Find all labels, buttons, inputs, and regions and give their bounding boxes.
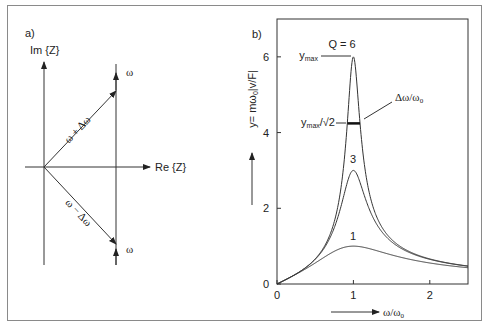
q6-label: Q = 6 [328,38,355,50]
x-axis-label: ω/ω0 [383,306,405,320]
figure: a) Im {Z} Re {Z} ω ω ω + Δω ω − Δω b) 01… [0,0,492,335]
y-tick-label: 2 [263,202,269,214]
lower-vector-label: ω − Δω [63,196,94,228]
bandwidth-label: Δω/ω0 [395,91,424,105]
upper-vector-label: ω + Δω [62,113,93,145]
curve-label-1: 1 [350,230,356,242]
curve-q1 [277,246,468,284]
upper-omega-label: ω [126,66,133,78]
lower-omega-label: ω [126,243,133,255]
y-tick-label: 0 [263,278,269,290]
panel-b-label: b) [252,28,262,40]
axis-ticks: 0120246 [263,51,433,301]
y-tick-label: 4 [263,127,269,139]
y-axis-label: y= mω0|v/F| [246,70,259,128]
x-tick-label: 1 [350,289,356,301]
half-power-label: ymax/√2 [301,116,335,129]
bandwidth-leader [364,102,392,119]
ymax-label: ymax [299,49,318,62]
x-tick-label: 2 [427,289,433,301]
im-axis-label: Im {Z} [30,44,60,56]
panel-b: b) 0120246 Q = 6 ymax ymax/√2 Δω/ω0 3 1 … [246,19,468,320]
curve-label-3: 3 [350,153,356,165]
panel-a: a) Im {Z} Re {Z} ω ω ω + Δω ω − Δω [25,27,187,265]
y-tick-label: 6 [263,51,269,63]
curves [277,57,468,284]
panel-a-label: a) [25,27,35,39]
re-axis-label: Re {Z} [155,161,187,173]
x-tick-label: 0 [274,289,280,301]
